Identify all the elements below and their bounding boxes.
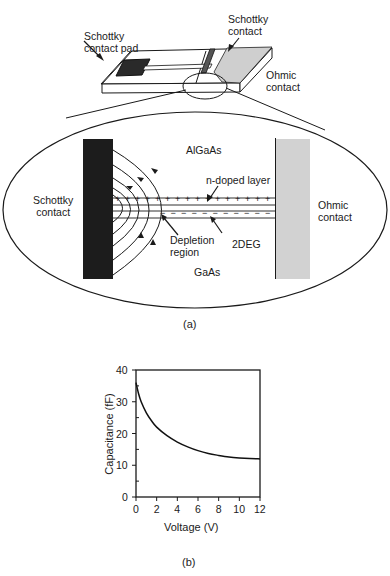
capacitance-chart bbox=[132, 370, 260, 501]
minus-charge: − bbox=[202, 208, 207, 218]
plus-charge: + bbox=[215, 194, 220, 204]
schottky-contact-bar bbox=[83, 139, 113, 279]
y-tick-label: 0 bbox=[122, 491, 128, 503]
minus-charge: − bbox=[265, 208, 270, 218]
minus-charge: − bbox=[192, 208, 197, 218]
minus-charge: − bbox=[244, 208, 249, 218]
minus-charge: − bbox=[181, 208, 186, 218]
ohmic-contact-top-label: Ohmic contact bbox=[266, 69, 300, 93]
x-axis-label: Voltage (V) bbox=[164, 521, 218, 533]
y-tick-label: 20 bbox=[116, 428, 128, 440]
figure-a-drawing bbox=[0, 0, 390, 576]
minus-charge: − bbox=[213, 208, 218, 218]
plus-charge: + bbox=[255, 194, 260, 204]
x-tick-label: 4 bbox=[174, 503, 180, 515]
plus-charge: + bbox=[235, 194, 240, 204]
schottky-pad-label: Schottky contact pad bbox=[84, 30, 138, 54]
y-tick-label: 10 bbox=[116, 459, 128, 471]
x-tick-label: 0 bbox=[133, 503, 139, 515]
plus-charge: + bbox=[175, 194, 180, 204]
plus-charge: + bbox=[115, 194, 120, 204]
gaas-label: GaAs bbox=[194, 266, 220, 278]
y-axis-label: Capacitance (fF) bbox=[103, 379, 115, 489]
schottky-contact-label: Schottky contact bbox=[33, 194, 73, 218]
caption-a: (a) bbox=[183, 318, 196, 330]
minus-charge: − bbox=[234, 208, 239, 218]
twodeg-label: 2DEG bbox=[232, 238, 261, 250]
field-lines bbox=[113, 150, 162, 275]
plus-charge: + bbox=[185, 194, 190, 204]
x-tick-label: 6 bbox=[195, 503, 201, 515]
capacitance-curve bbox=[136, 383, 260, 459]
plot-frame bbox=[136, 370, 260, 497]
n-doped-layer-label: n-doped layer bbox=[206, 174, 270, 186]
y-tick-label: 40 bbox=[116, 364, 128, 376]
plus-charge: + bbox=[125, 194, 130, 204]
plus-charge: + bbox=[205, 194, 210, 204]
plus-charge: + bbox=[145, 194, 150, 204]
ohmic-contact-label: Ohmic contact bbox=[318, 199, 352, 223]
y-tick-label: 30 bbox=[116, 396, 128, 408]
minus-charge: − bbox=[223, 208, 228, 218]
plus-charge: + bbox=[265, 194, 270, 204]
x-tick-label: 8 bbox=[216, 503, 222, 515]
plus-charge: + bbox=[225, 194, 230, 204]
n-doped-charges: ++++++++++++++++ bbox=[115, 195, 275, 207]
x-tick-label: 2 bbox=[154, 503, 160, 515]
ohmic-contact-bar bbox=[276, 139, 310, 279]
twodeg-charges: −−−−−−−−−−− bbox=[160, 208, 275, 220]
plus-charge: + bbox=[195, 194, 200, 204]
plus-charge: + bbox=[155, 194, 160, 204]
algaas-label: AlGaAs bbox=[186, 144, 222, 156]
schottky-contact-top-label: Schottky contact bbox=[228, 13, 268, 37]
minus-charge: − bbox=[160, 208, 165, 218]
plus-charge: + bbox=[165, 194, 170, 204]
x-tick-label: 10 bbox=[233, 503, 245, 515]
x-tick-label: 12 bbox=[254, 503, 266, 515]
plus-charge: + bbox=[245, 194, 250, 204]
minus-charge: − bbox=[255, 208, 260, 218]
caption-b: (b) bbox=[182, 556, 195, 568]
plus-charge: + bbox=[135, 194, 140, 204]
depletion-region-label: Depletion region bbox=[170, 234, 214, 258]
minus-charge: − bbox=[171, 208, 176, 218]
